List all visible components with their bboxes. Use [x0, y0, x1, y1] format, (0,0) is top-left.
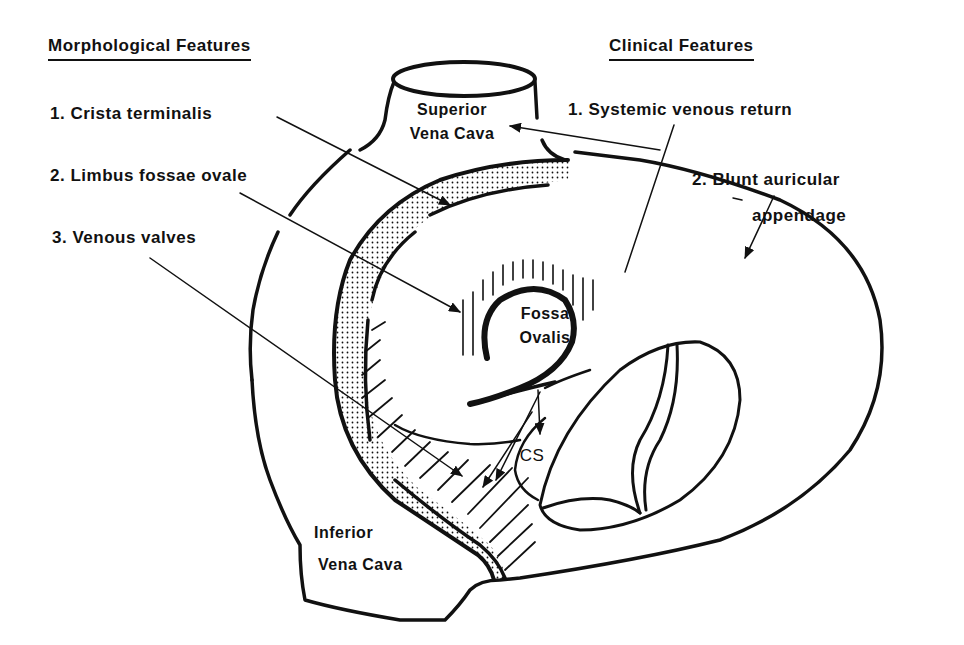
svc-label: Superior Vena Cava — [392, 98, 512, 146]
fossa-ovalis-label: Fossa Ovalis — [500, 302, 590, 350]
clinical-item-appendage: appendage — [752, 206, 846, 226]
clinical-item-systemic-venous-return: 1. Systemic venous return — [568, 100, 792, 120]
morph-item-venous-valves: 3. Venous valves — [52, 228, 196, 248]
tricuspid-valve — [540, 342, 740, 530]
clinical-item-blunt-auricular: 2. Blunt auricular — [692, 170, 840, 190]
morph-item-crista-terminalis: 1. Crista terminalis — [50, 104, 212, 124]
atrium-illustration — [0, 0, 964, 645]
morph-item-limbus-fossae-ovale: 2. Limbus fossae ovale — [50, 166, 247, 186]
clinical-features-heading: Clinical Features — [609, 36, 754, 61]
coronary-sinus-label: CS — [512, 444, 552, 468]
ivc-label: Inferior Vena Cava — [290, 517, 420, 581]
morphological-features-heading: Morphological Features — [48, 36, 251, 61]
